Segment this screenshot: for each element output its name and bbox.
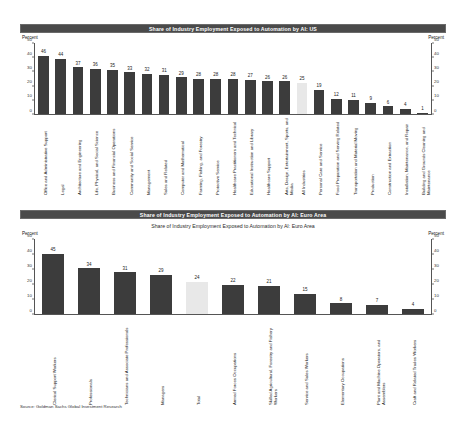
- panel-ea-title: Share of Industry Employment Exposed to …: [20, 210, 446, 219]
- bar-item[interactable]: 28: [190, 43, 207, 114]
- bar-item[interactable]: 4: [395, 239, 431, 314]
- bar[interactable]: [365, 103, 376, 114]
- y-tick-mark-right-30: [432, 269, 434, 270]
- y-tick-label-left-10: 10: [20, 94, 32, 98]
- bar-item[interactable]: 25: [293, 43, 310, 114]
- bar[interactable]: [142, 74, 153, 114]
- bar[interactable]: [417, 113, 428, 114]
- bar-item[interactable]: 28: [224, 43, 241, 114]
- y-tick-label-left-20: 20: [20, 278, 32, 282]
- category-label: Transportation and Material Moving: [354, 117, 359, 195]
- bar-item[interactable]: 7: [359, 239, 395, 314]
- bar-value-label: 34: [86, 263, 91, 268]
- bar-item[interactable]: 8: [323, 239, 359, 314]
- bar[interactable]: [90, 69, 101, 114]
- panel-us: Share of Industry Employment Exposed to …: [0, 24, 466, 204]
- y-tick-mark-left-10: [32, 99, 34, 100]
- y-tick-label-right-50: 50: [434, 37, 446, 41]
- bar[interactable]: [348, 100, 359, 114]
- bar[interactable]: [228, 79, 239, 114]
- bar[interactable]: [42, 254, 64, 314]
- y-axis-right: [431, 239, 432, 315]
- bar-item[interactable]: 1: [414, 43, 431, 114]
- bar[interactable]: [124, 72, 135, 114]
- bar-item[interactable]: 4: [397, 43, 414, 114]
- bar-item[interactable]: 34: [71, 239, 107, 314]
- bar-item[interactable]: 26: [276, 43, 293, 114]
- y-tick-label-left-0: 0: [20, 308, 32, 312]
- bar-item[interactable]: 12: [328, 43, 345, 114]
- bar-item[interactable]: 35: [104, 43, 121, 114]
- bar-item[interactable]: 46: [35, 43, 52, 114]
- category-label: Plant and Machine Operators, and Assembl…: [377, 317, 387, 405]
- bar[interactable]: [330, 303, 352, 314]
- category-label-cell: Professionals: [71, 315, 107, 407]
- bar[interactable]: [55, 59, 66, 114]
- bar-value-label: 26: [265, 76, 270, 81]
- category-label-cell: Sales and Related: [156, 115, 173, 197]
- bar[interactable]: [258, 286, 280, 314]
- bar[interactable]: [78, 268, 100, 314]
- category-label: Office and Administrative Support: [44, 117, 49, 195]
- category-label: Clerical Support Workers: [53, 317, 58, 405]
- bar-value-label: 37: [76, 62, 81, 67]
- bar[interactable]: [400, 109, 411, 114]
- bar[interactable]: [245, 80, 256, 114]
- bar-item[interactable]: 27: [242, 43, 259, 114]
- y-tick-label-left-50: 50: [20, 233, 32, 237]
- bar-item[interactable]: 24: [179, 239, 215, 314]
- bar-item[interactable]: 31: [156, 43, 173, 114]
- bar-item[interactable]: 21: [251, 239, 287, 314]
- bar-item[interactable]: 37: [69, 43, 86, 114]
- bar-item[interactable]: 11: [345, 43, 362, 114]
- bar[interactable]: [262, 81, 273, 114]
- bar[interactable]: [210, 79, 221, 114]
- bar[interactable]: [150, 275, 172, 314]
- bar[interactable]: [107, 70, 118, 114]
- bar[interactable]: [193, 79, 204, 114]
- bar[interactable]: [38, 56, 49, 114]
- bar-item[interactable]: 26: [259, 43, 276, 114]
- bar-value-label: 7: [376, 299, 379, 304]
- bar[interactable]: [73, 67, 84, 114]
- bar-item[interactable]: 44: [52, 43, 69, 114]
- bar[interactable]: [383, 106, 394, 114]
- y-tick-label-right-0: 0: [434, 308, 446, 312]
- bar-item[interactable]: 36: [87, 43, 104, 114]
- bar-item[interactable]: 33: [121, 43, 138, 114]
- bar[interactable]: [402, 309, 424, 314]
- bar[interactable]: [279, 81, 290, 114]
- category-label-cell: Craft and Related Trades Workers: [395, 315, 431, 407]
- bar-value-label: 22: [230, 279, 235, 284]
- bar-item[interactable]: 32: [138, 43, 155, 114]
- bar-item[interactable]: 22: [215, 239, 251, 314]
- bar-item[interactable]: 15: [287, 239, 323, 314]
- bar-item[interactable]: 28: [207, 43, 224, 114]
- bar[interactable]: [297, 83, 308, 115]
- category-label-cell: Total: [179, 315, 215, 407]
- bar-item[interactable]: 31: [107, 239, 143, 314]
- y-tick-mark-right-30: [432, 71, 434, 72]
- bar[interactable]: [114, 272, 136, 314]
- bar-value-label: 28: [196, 73, 201, 78]
- bar-item[interactable]: 6: [379, 43, 396, 114]
- bar[interactable]: [176, 77, 187, 114]
- bar-item[interactable]: 29: [143, 239, 179, 314]
- bar[interactable]: [222, 285, 244, 314]
- bar-item[interactable]: 9: [362, 43, 379, 114]
- bar[interactable]: [159, 75, 170, 114]
- bar[interactable]: [331, 99, 342, 114]
- panel-ea-category-labels: Clerical Support WorkersProfessionalsTec…: [20, 315, 446, 407]
- category-label: Total: [197, 317, 202, 405]
- category-label: Craft and Related Trades Workers: [413, 317, 418, 405]
- category-label: Armed Forces Occupations: [233, 317, 238, 405]
- bar[interactable]: [366, 305, 388, 314]
- y-tick-mark-left-50: [32, 43, 34, 44]
- bar-item[interactable]: 29: [173, 43, 190, 114]
- bar[interactable]: [294, 294, 316, 314]
- bar-item[interactable]: 45: [35, 239, 71, 314]
- bar[interactable]: [314, 90, 325, 114]
- bar-series-ea: 4534312924222115874: [35, 239, 431, 314]
- bar[interactable]: [186, 282, 208, 314]
- bar-item[interactable]: 19: [311, 43, 328, 114]
